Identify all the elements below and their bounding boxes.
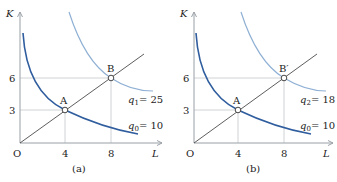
y-tick-3: 3 <box>183 105 189 116</box>
point-b-label: B <box>107 63 114 74</box>
origin-label: O <box>13 148 21 159</box>
caption-a: (a) <box>72 163 86 174</box>
x-tick-4: 4 <box>62 148 68 159</box>
panel-a: K L O 4 8 3 6 A B q1= 25 q0= 10 (a) <box>5 8 163 174</box>
x-tick-8: 8 <box>108 148 114 159</box>
x-tick-4: 4 <box>235 148 241 159</box>
point-a <box>62 107 68 113</box>
panel-b: K L O 4 8 3 6 A B′ q2= 18 q0= 10 (b) <box>179 8 335 174</box>
y-tick-3: 3 <box>9 105 15 116</box>
expansion-ray <box>20 54 144 143</box>
point-a-label: A <box>59 95 68 106</box>
q2-label: q2= 18 <box>300 94 335 107</box>
origin-label: O <box>186 148 194 159</box>
isoquant-diagram: K L O 4 8 3 6 A B q1= 25 q0= 10 (a) <box>0 0 337 182</box>
k-axis-label: K <box>179 8 188 19</box>
caption-b: (b) <box>246 163 260 174</box>
q1-label: q1= 25 <box>128 94 163 107</box>
l-axis-label: L <box>322 148 330 159</box>
expansion-ray <box>194 54 317 143</box>
point-b-prime <box>281 75 287 81</box>
q0-label: q0= 10 <box>300 120 335 133</box>
point-b <box>108 75 114 81</box>
x-tick-8: 8 <box>281 148 287 159</box>
k-axis-label: K <box>5 8 14 19</box>
point-a <box>235 107 241 113</box>
l-axis-label: L <box>151 148 159 159</box>
point-b-prime-label: B′ <box>279 63 289 74</box>
y-tick-6: 6 <box>183 73 189 84</box>
point-a-label: A <box>232 95 241 106</box>
y-tick-6: 6 <box>9 73 15 84</box>
q0-label: q0= 10 <box>128 120 163 133</box>
